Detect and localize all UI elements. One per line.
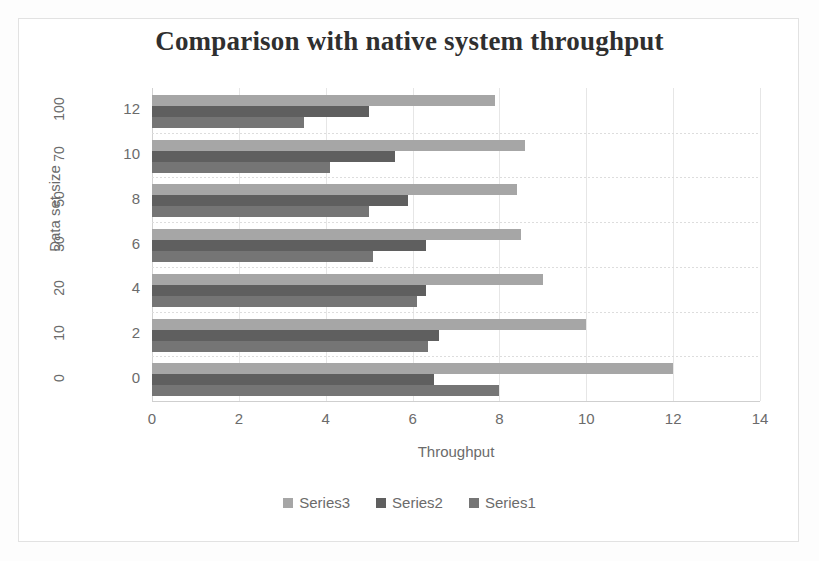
bar-series2 bbox=[152, 151, 395, 162]
legend-item[interactable]: Series3 bbox=[283, 494, 350, 511]
bar-series2 bbox=[152, 106, 369, 117]
bar-group bbox=[152, 356, 760, 401]
bar-group bbox=[152, 133, 760, 178]
bar-series1 bbox=[152, 385, 499, 396]
y-tick-label-outer: 30 bbox=[51, 221, 67, 267]
y-tick-label-inner: 6 bbox=[98, 235, 140, 252]
x-tick-label: 8 bbox=[479, 410, 519, 427]
y-tick-label-outer: 20 bbox=[51, 265, 67, 311]
bar-series2 bbox=[152, 374, 434, 385]
bar-series1 bbox=[152, 251, 373, 262]
y-tick-label-inner: 12 bbox=[98, 100, 140, 117]
legend-swatch-icon bbox=[376, 498, 386, 508]
x-tick-label: 6 bbox=[393, 410, 433, 427]
legend-label: Series1 bbox=[485, 494, 536, 511]
category-separator bbox=[152, 356, 760, 357]
bar-series2 bbox=[152, 330, 439, 341]
y-tick-label-inner: 2 bbox=[98, 324, 140, 341]
legend-swatch-icon bbox=[469, 498, 479, 508]
y-tick-label-inner: 0 bbox=[98, 369, 140, 386]
y-tick-label-inner: 4 bbox=[98, 279, 140, 296]
x-axis-line bbox=[152, 401, 760, 402]
category-separator bbox=[152, 222, 760, 223]
bar-group bbox=[152, 312, 760, 357]
y-tick-label-outer: 50 bbox=[51, 176, 67, 222]
x-tick-label: 4 bbox=[306, 410, 346, 427]
legend-label: Series2 bbox=[392, 494, 443, 511]
bar-series1 bbox=[152, 206, 369, 217]
x-tick-label: 10 bbox=[566, 410, 606, 427]
bar-series3 bbox=[152, 229, 521, 240]
bar-series3 bbox=[152, 184, 517, 195]
bar-series1 bbox=[152, 162, 330, 173]
bar-series1 bbox=[152, 117, 304, 128]
bar-group bbox=[152, 222, 760, 267]
x-tick-label: 2 bbox=[219, 410, 259, 427]
y-tick-label-inner: 10 bbox=[98, 145, 140, 162]
y-tick-label-outer: 10 bbox=[51, 310, 67, 356]
y-tick-label-outer: 0 bbox=[51, 355, 67, 401]
bar-series3 bbox=[152, 140, 525, 151]
bar-group bbox=[152, 88, 760, 133]
bar-series1 bbox=[152, 296, 417, 307]
bar-series2 bbox=[152, 285, 426, 296]
x-tick-label: 12 bbox=[653, 410, 693, 427]
bar-series3 bbox=[152, 274, 543, 285]
bar-series1 bbox=[152, 341, 428, 352]
y-tick-label-outer: 100 bbox=[51, 86, 67, 132]
x-tick-label: 14 bbox=[740, 410, 780, 427]
y-tick-label-inner: 8 bbox=[98, 190, 140, 207]
category-separator bbox=[152, 177, 760, 178]
chart-screenshot: Comparison with native system throughput… bbox=[0, 0, 819, 561]
bar-group bbox=[152, 267, 760, 312]
bar-series2 bbox=[152, 195, 408, 206]
category-separator bbox=[152, 133, 760, 134]
bar-series3 bbox=[152, 363, 673, 374]
bar-series2 bbox=[152, 240, 426, 251]
x-axis-title: Throughput bbox=[152, 443, 760, 460]
x-tick-label: 0 bbox=[132, 410, 172, 427]
category-separator bbox=[152, 267, 760, 268]
plot-area bbox=[152, 88, 760, 401]
legend-item[interactable]: Series2 bbox=[376, 494, 443, 511]
gridline bbox=[760, 88, 761, 401]
chart-title: Comparison with native system throughput bbox=[0, 26, 819, 57]
legend-item[interactable]: Series1 bbox=[469, 494, 536, 511]
chart-legend: Series3Series2Series1 bbox=[0, 494, 819, 511]
bar-series3 bbox=[152, 319, 586, 330]
bar-series3 bbox=[152, 95, 495, 106]
bar-group bbox=[152, 177, 760, 222]
legend-swatch-icon bbox=[283, 498, 293, 508]
legend-label: Series3 bbox=[299, 494, 350, 511]
y-tick-label-outer: 70 bbox=[51, 131, 67, 177]
category-separator bbox=[152, 312, 760, 313]
